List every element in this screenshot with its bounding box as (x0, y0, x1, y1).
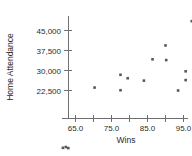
data-point (143, 79, 146, 82)
data-point (119, 73, 122, 76)
data-point (190, 20, 192, 23)
y-tick-label-45000: 45,000 (37, 27, 62, 36)
data-point (165, 59, 168, 62)
data-point (62, 147, 65, 150)
y-axis-title: Home Attendance (5, 33, 15, 101)
y-tick-label-37500: 37,500 (37, 47, 62, 56)
data-point (184, 70, 187, 73)
data-point (177, 89, 180, 92)
data-point (67, 147, 70, 150)
x-tick-label-85: 85.0 (140, 124, 156, 133)
x-tick-label-65: 65.0 (68, 124, 84, 133)
plot-area: 45,000 37,500 30,000 22,500 65.0 75.0 85… (0, 0, 192, 156)
data-point (184, 79, 187, 82)
y-tick-label-30000: 30,000 (37, 67, 62, 76)
scatter-chart: 45,000 37,500 30,000 22,500 65.0 75.0 85… (0, 0, 192, 156)
data-point (119, 89, 122, 92)
y-tick-label-22500: 22,500 (37, 87, 62, 96)
x-tick-label-75: 75.0 (104, 124, 120, 133)
x-axis-title: Wins (117, 135, 136, 145)
x-tick-label-95: 95.0 (176, 124, 192, 133)
data-point (126, 77, 129, 80)
data-point (164, 44, 167, 47)
data-point (151, 58, 154, 61)
data-point (93, 86, 96, 89)
data-point (64, 146, 67, 149)
